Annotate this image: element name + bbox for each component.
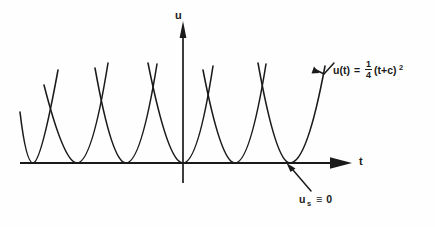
steady-state-relation: ≡ xyxy=(316,194,322,205)
u-axis-label: u xyxy=(175,9,182,21)
formula-equals-sign: = xyxy=(354,65,360,76)
steady-state-annotation: u s ≡ 0 xyxy=(299,194,332,205)
u-axis-arrowhead xyxy=(180,21,187,38)
formula-fraction: 1 4 xyxy=(365,60,372,81)
formula-denominator: 4 xyxy=(365,71,372,80)
formula-lhs: u(t) xyxy=(333,65,350,76)
steady-state-value: 0 xyxy=(326,194,332,205)
parabola-curve-6 xyxy=(258,63,325,163)
parabola-curve-5 xyxy=(203,64,266,163)
t-axis-arrowhead xyxy=(330,157,352,169)
t-axis-group xyxy=(20,157,352,169)
parabola-family xyxy=(20,63,325,163)
steady-state-pointer xyxy=(287,163,312,191)
parabola-family-plot xyxy=(0,0,435,227)
steady-state-symbol: u xyxy=(299,194,305,205)
formula-numerator: 1 xyxy=(365,60,372,69)
formula-pointer xyxy=(312,63,335,74)
formula-base: (t+c) xyxy=(374,65,396,76)
formula-annotation: u(t) = 1 4 (t+c) 2 xyxy=(333,60,403,81)
u-axis-group xyxy=(180,21,187,183)
steady-state-subscript: s xyxy=(307,200,311,208)
figure-container: u t u(t) = 1 4 (t+c) 2 u s ≡ 0 xyxy=(0,0,435,227)
parabola-curve-4 xyxy=(148,63,213,163)
formula-exponent: 2 xyxy=(399,64,403,72)
t-axis-label: t xyxy=(359,155,363,167)
parabola-curve-3 xyxy=(95,64,157,163)
parabola-curve-2 xyxy=(44,63,108,163)
formula-pointer-arrowhead xyxy=(312,67,320,74)
steady-state-pointer-line xyxy=(293,170,311,191)
